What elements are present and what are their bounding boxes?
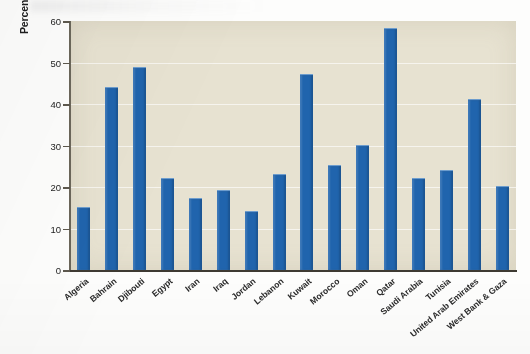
y-axis-tick-label: 20 — [19, 182, 61, 193]
x-label-slot: Iraq — [209, 273, 237, 354]
y-axis-tick-mark — [63, 187, 70, 189]
bar-slot — [154, 21, 182, 270]
bar[interactable] — [189, 198, 202, 270]
bar[interactable] — [273, 174, 286, 270]
y-axis-tick-label: 50 — [19, 57, 61, 68]
bar[interactable] — [133, 67, 146, 270]
y-axis-tick-label: 40 — [19, 99, 61, 110]
bar-slot — [293, 21, 321, 270]
y-axis-tick-label: 0 — [19, 265, 61, 276]
bar-slot — [70, 21, 98, 270]
x-label-slot: Qatar — [377, 273, 405, 354]
x-label-slot: Lebanon — [265, 273, 293, 354]
y-axis-tick-label: 30 — [19, 140, 61, 151]
bar[interactable] — [496, 186, 509, 270]
y-axis-tick-label: 60 — [19, 16, 61, 27]
x-label-slot: Djibouti — [126, 273, 154, 354]
bar[interactable] — [356, 145, 369, 270]
bar-slot — [321, 21, 349, 270]
x-label-slot: Morocco — [321, 273, 349, 354]
bar-slot — [405, 21, 433, 270]
bar[interactable] — [468, 99, 481, 270]
x-axis-tick-label: Egypt — [149, 276, 174, 299]
x-label-slot: Bahrain — [98, 273, 126, 354]
bar-slot — [432, 21, 460, 270]
y-axis-tick-label: 10 — [19, 223, 61, 234]
bar-slot — [126, 21, 154, 270]
y-axis-tick-labels: 0102030405060 — [0, 0, 61, 354]
x-axis-tick-label: Iraq — [211, 276, 229, 294]
x-axis-tick-label: Oman — [344, 276, 369, 299]
bar-slot — [349, 21, 377, 270]
x-label-slot: Kuwait — [293, 273, 321, 354]
bar-series — [70, 21, 516, 270]
scan-artifact — [30, 0, 270, 12]
x-label-slot: Algeria — [70, 273, 98, 354]
y-axis-tick-mark — [63, 146, 70, 148]
bar[interactable] — [245, 211, 258, 270]
x-axis-tick-label: Qatar — [374, 276, 397, 298]
bar-slot — [460, 21, 488, 270]
bar[interactable] — [412, 178, 425, 270]
x-label-slot: West Bank & Gaza — [488, 273, 516, 354]
bar-slot — [488, 21, 516, 270]
bar-slot — [98, 21, 126, 270]
bar[interactable] — [440, 170, 453, 270]
x-label-slot: Iran — [182, 273, 210, 354]
plot-area — [70, 21, 516, 270]
scanned-page: Percentage of female labor force partici… — [0, 0, 530, 354]
x-axis-tick-label: Iran — [184, 276, 202, 294]
y-axis-tick-mark — [63, 104, 70, 106]
y-axis-tick-mark — [63, 63, 70, 65]
bar-slot — [265, 21, 293, 270]
y-axis-tick-mark — [63, 21, 70, 23]
x-label-slot: Egypt — [154, 273, 182, 354]
bar[interactable] — [300, 74, 313, 270]
bar[interactable] — [328, 165, 341, 270]
y-axis-tick-mark — [63, 229, 70, 231]
x-axis-tick-label: Algeria — [62, 276, 90, 302]
x-axis-line — [69, 270, 517, 272]
bar-slot — [182, 21, 210, 270]
bar-slot — [377, 21, 405, 270]
bar-slot — [209, 21, 237, 270]
x-axis-tick-labels: AlgeriaBahrainDjiboutiEgyptIranIraqJorda… — [70, 273, 516, 354]
x-label-slot: Oman — [349, 273, 377, 354]
bar[interactable] — [105, 87, 118, 270]
bar[interactable] — [384, 28, 397, 270]
bar[interactable] — [217, 190, 230, 270]
bar[interactable] — [77, 207, 90, 270]
bar-slot — [237, 21, 265, 270]
bar[interactable] — [161, 178, 174, 270]
x-label-slot: Jordan — [237, 273, 265, 354]
y-axis-tick-mark — [63, 270, 70, 272]
